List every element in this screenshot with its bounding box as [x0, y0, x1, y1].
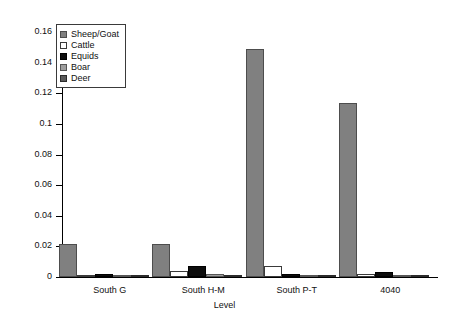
legend-item: Equids [60, 51, 119, 61]
y-tick-mark [56, 277, 62, 278]
bar-group [246, 32, 336, 277]
bar [206, 274, 224, 277]
bar [131, 275, 149, 277]
legend-item: Sheep/Goat [60, 29, 119, 39]
bar [411, 275, 429, 277]
y-tick-label: 0.14 [8, 58, 52, 67]
bar-group [152, 32, 242, 277]
y-tick-label: 0.06 [8, 180, 52, 189]
y-tick-label: 0.02 [8, 241, 52, 250]
bar [375, 272, 393, 277]
bar [282, 274, 300, 277]
legend-item-label: Deer [71, 74, 91, 83]
bar-chart: 00.020.040.060.080.10.120.140.16 South G… [0, 0, 449, 322]
legend-swatch-icon [60, 31, 67, 38]
y-tick-label: 0 [8, 272, 52, 281]
bar [113, 275, 131, 277]
x-tick-label: South H-M [157, 285, 251, 295]
bar-group [339, 32, 429, 277]
bar [95, 274, 113, 277]
legend-item: Deer [60, 73, 119, 83]
bar [318, 275, 336, 277]
bar [264, 266, 282, 277]
x-tick-label: 4040 [344, 285, 438, 295]
legend-swatch-icon [60, 53, 67, 60]
legend-item-label: Sheep/Goat [71, 30, 119, 39]
legend-swatch-icon [60, 64, 67, 71]
bar [170, 271, 188, 277]
legend-item: Boar [60, 62, 119, 72]
bar [357, 274, 375, 277]
legend-item-label: Cattle [71, 41, 95, 50]
y-tick-label: 0.12 [8, 88, 52, 97]
y-tick-label: 0.08 [8, 150, 52, 159]
bar [393, 275, 411, 277]
x-tick-label: South G [63, 285, 157, 295]
legend-swatch-icon [60, 75, 67, 82]
x-tick-label: South P-T [250, 285, 344, 295]
bar [300, 275, 318, 277]
bar [246, 49, 264, 277]
bar [224, 275, 242, 277]
bar [152, 244, 170, 277]
legend-swatch-icon [60, 42, 67, 49]
legend-item-label: Boar [71, 63, 90, 72]
y-tick-label: 0.1 [8, 119, 52, 128]
y-tick-label: 0.16 [8, 27, 52, 36]
bar [188, 266, 206, 277]
x-axis-line [62, 277, 438, 278]
bar [77, 275, 95, 277]
y-tick-label: 0.04 [8, 211, 52, 220]
bar [59, 244, 77, 277]
bar [339, 103, 357, 277]
chart-legend: Sheep/GoatCattleEquidsBoarDeer [56, 24, 126, 88]
legend-item: Cattle [60, 40, 119, 50]
legend-item-label: Equids [71, 52, 99, 61]
x-axis-title: Level [0, 300, 449, 310]
